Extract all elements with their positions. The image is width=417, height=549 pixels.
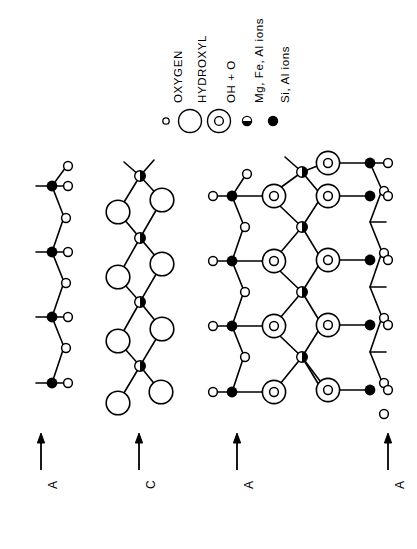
legend-item-si-al	[268, 116, 277, 125]
silicon-atom	[227, 321, 238, 332]
mg-fe-al-atom	[297, 167, 308, 178]
oh-plus-o-atom	[316, 151, 339, 174]
oh-plus-o-icon-inner	[215, 117, 224, 126]
silicon-atom	[365, 191, 376, 202]
oxygen-atom	[380, 410, 389, 419]
oxygen-atom	[209, 322, 218, 331]
oh-plus-o-atom	[316, 313, 339, 336]
legend-item-hydroxyl	[179, 110, 202, 133]
oh-plus-o-atom	[262, 184, 285, 207]
hydroxyl-atom	[106, 265, 130, 289]
oxygen-icon	[163, 118, 169, 124]
legend-item-oxygen	[163, 118, 169, 124]
oxygen-atom	[209, 192, 218, 201]
oxygen-atom	[64, 182, 73, 191]
oxygen-atom	[384, 256, 393, 265]
oxygen-atom	[384, 321, 393, 330]
mg-fe-al-atom	[135, 361, 146, 372]
silicon-atom	[365, 320, 376, 331]
silicon-atom	[47, 378, 58, 389]
hydroxyl-atom	[150, 317, 174, 341]
oxygen-atom	[64, 248, 73, 257]
oxygen-atom	[64, 162, 73, 171]
oxygen-atom	[62, 279, 71, 288]
hydroxyl-atom	[149, 380, 173, 404]
mg-fe-al-atom	[135, 171, 146, 182]
hydroxyl-atom	[106, 200, 130, 224]
hydroxyl-atom	[106, 329, 130, 353]
silicon-atom	[365, 158, 376, 169]
silicon-atom	[47, 312, 58, 323]
oxygen-atom	[64, 313, 73, 322]
oxygen-atom	[209, 388, 218, 397]
oxygen-atom	[241, 288, 250, 297]
figure-background	[0, 0, 417, 549]
silicon-atom	[47, 181, 58, 192]
silicon-atom	[47, 247, 58, 258]
oxygen-atom	[209, 257, 218, 266]
silicon-atom	[227, 191, 238, 202]
oh-plus-o-atom	[262, 380, 285, 403]
hydroxyl-icon	[179, 110, 202, 133]
silicon-atom	[365, 255, 376, 266]
oxygen-atom	[62, 214, 71, 223]
oh-plus-o-atom	[316, 184, 339, 207]
oh-plus-o-atom	[262, 249, 285, 272]
silicon-atom	[365, 385, 376, 396]
legend-item-oh-plus-o	[208, 110, 231, 133]
oxygen-atom	[243, 170, 252, 179]
mg-fe-al-atom	[297, 287, 308, 298]
oxygen-atom	[62, 344, 71, 353]
mineral-structure-figure	[0, 0, 417, 549]
oh-plus-o-atom	[316, 378, 339, 401]
oxygen-atom	[241, 353, 250, 362]
mg-fe-al-atom	[297, 222, 308, 233]
mg-fe-al-atom	[297, 352, 308, 363]
hydroxyl-atom	[150, 252, 174, 276]
si-al-ions-icon	[268, 116, 277, 125]
oxygen-atom	[384, 192, 393, 201]
silicon-atom	[227, 256, 238, 267]
oh-plus-o-atom	[316, 248, 339, 271]
oxygen-atom	[384, 159, 393, 168]
mg-fe-al-atom	[135, 233, 146, 244]
oxygen-atom	[64, 379, 73, 388]
silicon-atom	[227, 387, 238, 398]
oxygen-atom	[241, 223, 250, 232]
mg-fe-al-atom	[135, 297, 146, 308]
oh-plus-o-atom	[262, 314, 285, 337]
legend-item-mg-fe-al	[242, 116, 251, 125]
oxygen-atom	[384, 386, 393, 395]
hydroxyl-atom	[150, 188, 174, 212]
hydroxyl-atom	[106, 391, 130, 415]
